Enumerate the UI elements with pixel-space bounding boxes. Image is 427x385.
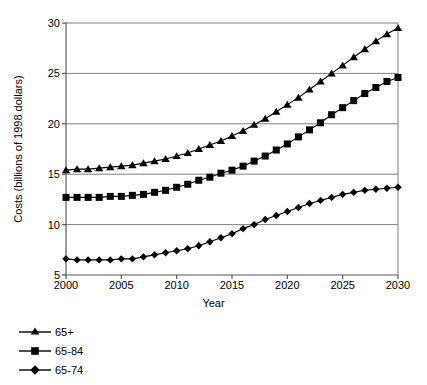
legend-item-0[interactable]: 65+ bbox=[18, 322, 83, 341]
diamond-marker-icon bbox=[18, 363, 52, 377]
square-marker-icon bbox=[18, 344, 52, 358]
legend-item-1[interactable]: 65-84 bbox=[18, 341, 83, 360]
x-tick-label: 2005 bbox=[96, 279, 146, 291]
legend-label-1: 65-84 bbox=[55, 345, 83, 357]
gridlines bbox=[66, 23, 398, 225]
legend-item-2[interactable]: 65-74 bbox=[18, 360, 83, 379]
triangle-marker-icon bbox=[18, 325, 52, 339]
data-series-layer bbox=[62, 24, 402, 263]
x-tick-label: 2020 bbox=[262, 279, 312, 291]
x-tick-label: 2030 bbox=[373, 279, 423, 291]
line-chart: Costs (billions of 1998 dollars) 5101520… bbox=[0, 0, 427, 385]
x-tick-label: 2000 bbox=[41, 279, 91, 291]
legend-label-2: 65-74 bbox=[55, 364, 83, 376]
x-axis-title: Year bbox=[0, 297, 427, 309]
x-tick-label: 2025 bbox=[318, 279, 368, 291]
x-tick-label: 2010 bbox=[152, 279, 202, 291]
chart-legend: 65+ 65-84 65-74 bbox=[18, 322, 83, 379]
legend-label-0: 65+ bbox=[55, 326, 74, 338]
x-tick-label: 2015 bbox=[207, 279, 257, 291]
